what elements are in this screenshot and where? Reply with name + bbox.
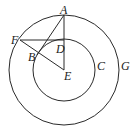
point-label-b: B bbox=[28, 50, 36, 64]
point-label-d: D bbox=[55, 42, 65, 56]
point-label-e: E bbox=[63, 69, 72, 83]
geometry-diagram: A F B D E C G bbox=[0, 0, 135, 131]
circle-label-c: C bbox=[97, 59, 106, 73]
point-label-a: A bbox=[59, 3, 68, 17]
circle-label-g: G bbox=[121, 59, 130, 73]
point-label-f: F bbox=[10, 33, 19, 47]
